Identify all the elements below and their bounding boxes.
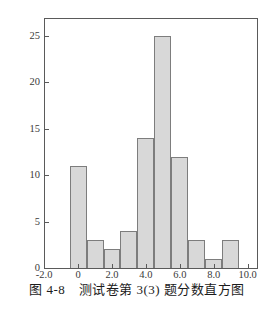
x-axis-tick-label: 2.0	[105, 270, 118, 281]
y-axis-tick	[45, 129, 49, 130]
histogram-figure: -2.002.04.06.08.010.00510152025 图 4-8 测试…	[0, 0, 274, 313]
figure-caption: 图 4-8 测试卷第 3(3) 题分数直方图	[0, 283, 274, 296]
y-axis-tick-label: 0	[35, 263, 40, 274]
y-axis-tick	[45, 268, 49, 269]
x-axis-tick-label: 10.0	[238, 270, 256, 281]
x-axis-tick-label: 6.0	[173, 270, 186, 281]
x-axis-tick-label: 4.0	[139, 270, 152, 281]
y-axis-tick	[45, 82, 49, 83]
ticks-layer: -2.002.04.06.08.010.00510152025	[45, 19, 257, 268]
y-axis-tick	[45, 175, 49, 176]
y-axis-tick-label: 10	[30, 170, 41, 181]
y-axis-tick-label: 5	[35, 216, 40, 227]
y-axis-tick	[45, 222, 49, 223]
y-axis-tick-label: 25	[30, 30, 41, 41]
y-axis-tick-label: 20	[30, 77, 41, 88]
x-axis-tick	[146, 264, 147, 268]
x-axis-tick	[180, 264, 181, 268]
x-axis-tick	[214, 264, 215, 268]
x-axis-tick	[78, 264, 79, 268]
plot-area: -2.002.04.06.08.010.00510152025	[44, 18, 258, 269]
y-axis-tick-label: 15	[30, 123, 41, 134]
x-axis-tick	[248, 264, 249, 268]
y-axis-tick	[45, 36, 49, 37]
x-axis-tick-label: 0	[75, 270, 80, 281]
x-axis-tick	[112, 264, 113, 268]
x-axis-tick-label: 8.0	[207, 270, 220, 281]
